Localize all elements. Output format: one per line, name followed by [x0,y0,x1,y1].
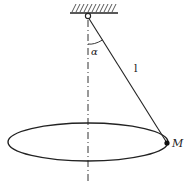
mass-point [164,140,169,145]
angle-arc [88,40,103,44]
ceiling-support [70,4,118,13]
angle-label: α [91,46,98,57]
pivot-hinge [85,13,90,18]
point-label: M [171,137,184,150]
pendulum-diagram: α l M [0,0,184,185]
pendulum-string [88,17,167,143]
length-label: l [134,62,138,75]
